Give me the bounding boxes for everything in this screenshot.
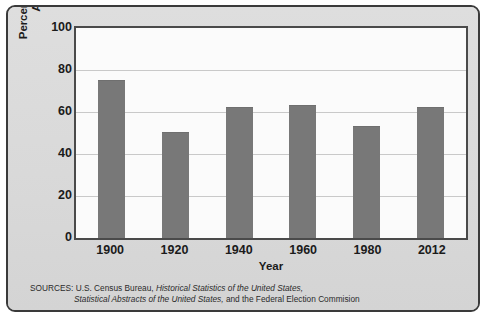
x-axis-tick-label: 1940 bbox=[207, 243, 271, 261]
x-axis-tick-label: 1960 bbox=[271, 243, 335, 261]
y-axis-tick-labels: 020406080100 bbox=[36, 20, 72, 246]
bar-slot bbox=[207, 28, 271, 238]
bar bbox=[417, 107, 444, 238]
bar-slot bbox=[398, 28, 462, 238]
y-axis-tick-label: 0 bbox=[36, 231, 72, 244]
bar-slot bbox=[271, 28, 335, 238]
x-axis-tick-label: 1920 bbox=[142, 243, 206, 261]
y-axis-tick-label: 40 bbox=[36, 147, 72, 160]
y-axis-title-line-2: Actually Voting bbox=[30, 5, 44, 12]
y-axis-tick-label: 60 bbox=[36, 105, 72, 118]
source-note: SOURCES: U.S. Census Bureau, Historical … bbox=[30, 283, 468, 304]
bar-series bbox=[76, 28, 466, 238]
bar-slot bbox=[80, 28, 144, 238]
source-note-line-1: SOURCES: U.S. Census Bureau, Historical … bbox=[30, 283, 468, 294]
y-axis-tick-label: 20 bbox=[36, 189, 72, 202]
bar bbox=[162, 132, 189, 238]
x-axis-tick-labels: 190019201940196019802012 bbox=[74, 243, 468, 261]
bar-slot bbox=[144, 28, 208, 238]
x-axis-tick-label: 2012 bbox=[400, 243, 464, 261]
source-suffix: and the Federal Election Commision bbox=[224, 294, 360, 304]
bar bbox=[98, 80, 125, 239]
x-axis-tick-label: 1980 bbox=[335, 243, 399, 261]
y-axis-tick-label: 80 bbox=[36, 63, 72, 76]
figure-panel: Percentage of Population Actually Voting… bbox=[6, 5, 480, 312]
y-axis-tick-label: 100 bbox=[36, 21, 72, 34]
source-italic-2: Statistical Abstracts of the United Stat… bbox=[74, 294, 224, 304]
bar bbox=[226, 107, 253, 238]
plot-area bbox=[74, 26, 468, 240]
bar-slot bbox=[335, 28, 399, 238]
source-note-line-2: Statistical Abstracts of the United Stat… bbox=[30, 294, 468, 305]
x-axis-title: Year bbox=[74, 260, 468, 272]
bar bbox=[289, 105, 316, 238]
source-prefix: SOURCES: U.S. Census Bureau, bbox=[30, 283, 156, 293]
bar bbox=[353, 126, 380, 238]
source-italic-1: Historical Statistics of the United Stat… bbox=[156, 283, 303, 293]
y-axis-title-line-1: Percentage of Population bbox=[17, 5, 31, 39]
x-axis-tick-label: 1900 bbox=[78, 243, 142, 261]
